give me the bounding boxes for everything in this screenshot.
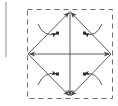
diamond-edge-top-right xyxy=(71,13,111,55)
arc-lower-left-marker xyxy=(56,73,59,76)
figure-canvas xyxy=(0,0,118,106)
diamond-edge-bottom-left xyxy=(28,54,69,96)
arc-lower-right-marker xyxy=(83,73,86,76)
arc-lower-left xyxy=(38,73,57,85)
arc-upper-left-marker xyxy=(56,32,59,35)
arc-upper-left xyxy=(38,24,57,35)
diamond-edge-bottom-right xyxy=(71,54,111,96)
diamond-edge-top-left xyxy=(28,13,69,55)
arc-upper-right-marker xyxy=(83,32,86,35)
geometry-diagram xyxy=(0,0,118,106)
